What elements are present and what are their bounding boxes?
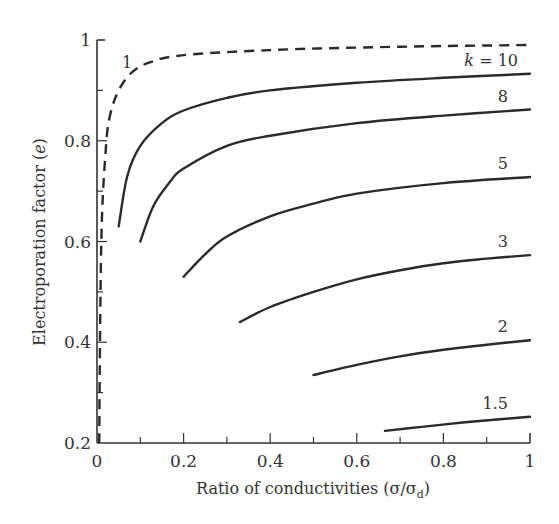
y-tick-label: 0.6 [64,232,91,252]
curve-k-1 [99,45,530,443]
curve-labels: 1k = 1085321.5 [122,51,518,413]
curve-label: 3 [498,232,508,251]
curve-label: 8 [498,87,508,106]
x-tick-label: 0.8 [430,451,457,471]
x-tick-label: 1 [525,451,536,471]
y-tick-label: 0.8 [64,131,91,151]
y-tick-label: 1 [80,30,91,50]
curve-k-8 [140,110,530,242]
curve-k-5 [184,177,530,277]
y-axis-title: Electroporation factor (e) [30,138,49,346]
y-tick-label: 0.4 [64,332,91,352]
curve-label: k = 10 [464,51,518,70]
curve-label: 1 [122,53,132,72]
x-tick-label: 0.4 [257,451,284,471]
x-tick-label: 0 [92,451,103,471]
ticks: 00.20.40.60.810.20.40.60.81 [64,30,535,471]
curve-k-1.5 [385,417,530,431]
curve-label: 1.5 [483,394,508,413]
curve-k-3 [240,255,530,322]
x-axis-title: Ratio of conductivities (σ/σd) [196,479,430,501]
curve-label: 5 [498,154,508,173]
axes [97,40,530,443]
curves [99,45,530,443]
y-tick-label: 0.2 [64,433,91,453]
x-tick-label: 0.6 [343,451,370,471]
curve-k-2 [314,340,531,375]
curve-label: 2 [498,317,508,336]
chart: 00.20.40.60.810.20.40.60.81 1k = 1085321… [0,0,559,524]
curve-k-10 [119,74,530,227]
x-tick-label: 0.2 [170,451,197,471]
